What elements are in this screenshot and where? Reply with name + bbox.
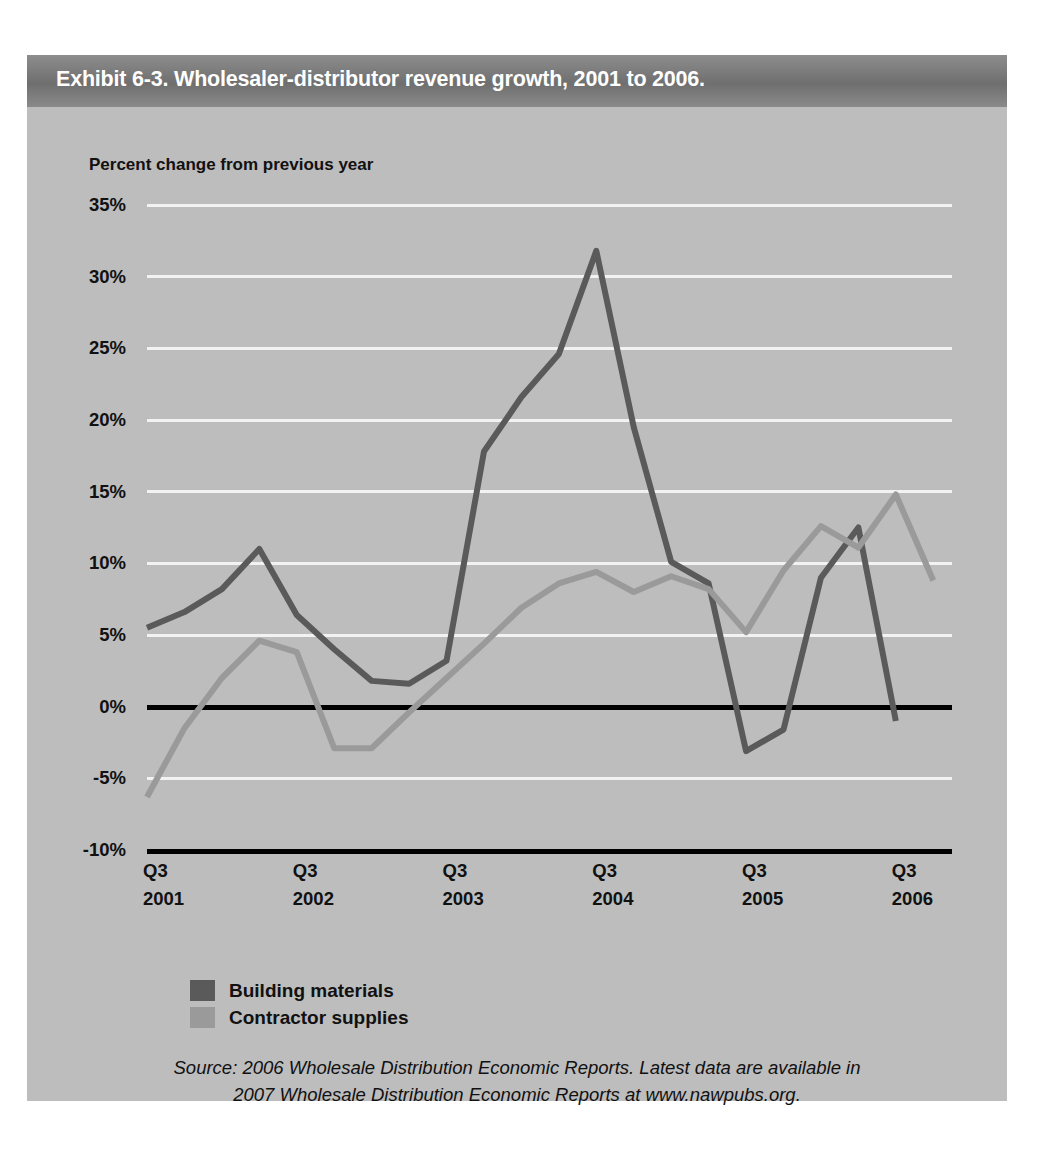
series-line-building-materials (147, 251, 896, 751)
exhibit-panel: Exhibit 6-3. Wholesaler-distributor reve… (27, 55, 1007, 1101)
y-axis-tick-label: 10% (6, 552, 126, 574)
source-line-1: Source: 2006 Wholesale Distribution Econ… (174, 1057, 861, 1078)
x-axis-tick-label: Q32002 (293, 860, 413, 910)
x-tick-year: 2001 (143, 888, 263, 910)
series-line-contractor-supplies (147, 495, 933, 797)
series-layer (147, 205, 952, 850)
legend-swatch-icon (190, 1007, 215, 1028)
legend-swatch-icon (190, 980, 215, 1001)
x-axis-tick-label: Q32004 (592, 860, 712, 910)
y-axis-tick-label: 5% (6, 624, 126, 646)
x-tick-quarter: Q3 (143, 860, 263, 882)
x-tick-year: 2004 (592, 888, 712, 910)
y-axis-tick-label: 0% (6, 696, 126, 718)
x-axis-tick-label: Q32006 (892, 860, 1012, 910)
x-tick-year: 2002 (293, 888, 413, 910)
x-tick-quarter: Q3 (443, 860, 563, 882)
y-axis-tick-label: -5% (6, 767, 126, 789)
x-tick-year: 2003 (443, 888, 563, 910)
x-tick-quarter: Q3 (742, 860, 862, 882)
x-tick-quarter: Q3 (592, 860, 712, 882)
legend-label: Contractor supplies (229, 1007, 408, 1029)
source-line-2: 2007 Wholesale Distribution Economic Rep… (72, 1082, 962, 1109)
chart-area: 35%30%25%20%15%10%5%0%-5%-10% Q32001Q320… (27, 55, 1007, 1101)
chart-legend: Building materialsContractor supplies (190, 977, 408, 1031)
x-tick-year: 2005 (742, 888, 862, 910)
x-tick-year: 2006 (892, 888, 1012, 910)
x-axis-tick-label: Q32001 (143, 860, 263, 910)
x-axis-tick-label: Q32003 (443, 860, 563, 910)
x-tick-quarter: Q3 (892, 860, 1012, 882)
y-axis-tick-label: 25% (6, 337, 126, 359)
x-axis: Q32001Q32002Q32003Q32004Q32005Q32006 (147, 860, 952, 930)
y-axis-tick-label: -10% (6, 839, 126, 861)
plot-region: 35%30%25%20%15%10%5%0%-5%-10% (147, 205, 952, 850)
legend-item: Contractor supplies (190, 1004, 408, 1031)
y-axis-tick-label: 20% (6, 409, 126, 431)
x-axis-tick-label: Q32005 (742, 860, 862, 910)
legend-item: Building materials (190, 977, 408, 1004)
y-axis-tick-label: 30% (6, 266, 126, 288)
x-tick-quarter: Q3 (293, 860, 413, 882)
source-note: Source: 2006 Wholesale Distribution Econ… (72, 1055, 962, 1109)
y-axis-tick-label: 15% (6, 481, 126, 503)
y-axis-tick-label: 35% (6, 194, 126, 216)
legend-label: Building materials (229, 980, 394, 1002)
